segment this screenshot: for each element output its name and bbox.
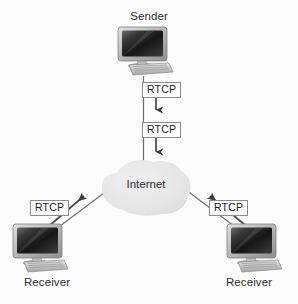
- diagram-canvas: Internet Sender: [0, 0, 298, 304]
- rtcp-tag-receiver-right: RTCP: [209, 200, 248, 216]
- receiver-left-label: Receiver: [2, 276, 92, 288]
- rtcp-tag-sender-2: RTCP: [142, 122, 181, 138]
- receiver-right-label: Receiver: [204, 276, 294, 288]
- rtcp-tag-receiver-left: RTCP: [30, 200, 69, 216]
- cloud-label: Internet: [99, 178, 193, 190]
- internet-cloud: Internet: [99, 157, 193, 217]
- sender-label: Sender: [0, 10, 298, 22]
- rtcp-tag-sender-1: RTCP: [142, 82, 181, 98]
- receiver-left-computer-icon: [8, 222, 70, 274]
- receiver-right-computer-icon: [222, 222, 284, 274]
- sender-computer-icon: [113, 25, 175, 77]
